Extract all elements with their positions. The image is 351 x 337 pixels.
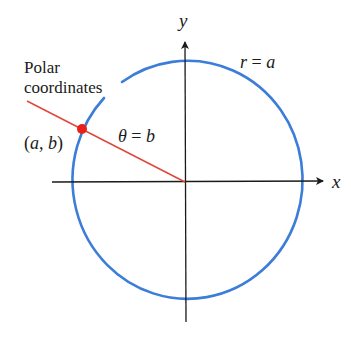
y-axis — [185, 42, 186, 322]
point-label: (a, b) — [24, 133, 63, 154]
angle-label: θ = b — [118, 126, 155, 146]
x-axis — [52, 181, 323, 182]
x-axis-label: x — [331, 171, 341, 192]
caption-polar: Polar — [24, 58, 60, 77]
polar-coordinates-diagram: Polar coordinates (a, b) θ = b r = a x y — [0, 0, 351, 337]
circle-label: r = a — [240, 52, 275, 72]
point-a-b — [77, 124, 87, 134]
y-axis-label: y — [177, 10, 188, 31]
caption-coordinates: coordinates — [24, 78, 102, 97]
circle-r-equals-a — [73, 61, 303, 299]
